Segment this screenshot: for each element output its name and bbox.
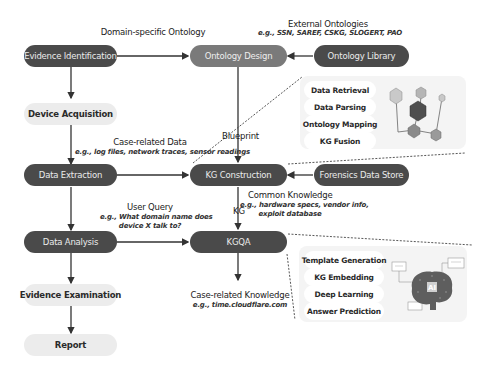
step-kg-embedding: KG Embedding: [304, 268, 384, 286]
ai-text: AI: [428, 284, 436, 292]
label-kg: KG: [232, 206, 246, 216]
label-common-knowledge-examples-1: e.g., hardware specs, vendor info,: [240, 201, 340, 209]
step-template-generation: Template Generation: [304, 251, 384, 269]
node-kgqa[interactable]: KGQA: [190, 231, 287, 253]
ai-brain-icon: AI: [390, 254, 470, 318]
node-report[interactable]: Report: [24, 334, 117, 356]
step-data-parsing: Data Parsing: [304, 98, 376, 116]
node-device-acquisition[interactable]: Device Acquisition: [24, 103, 117, 125]
node-evidence-examination[interactable]: Evidence Examination: [24, 284, 117, 306]
node-evidence-identification[interactable]: Evidence Identification: [24, 45, 117, 67]
step-kg-fusion: KG Fusion: [304, 132, 376, 150]
node-kg-construction[interactable]: KG Construction: [190, 164, 287, 186]
knowledge-graph-icon: [388, 84, 460, 146]
label-external-ontologies-examples: e.g., SSN, SAREF, CSKG, SLOGERT, PAO: [255, 29, 405, 37]
label-case-related-knowledge-example: e.g., time.cloudflare.com: [188, 301, 292, 309]
label-case-related-data-examples: e.g., log files, network traces, sensor …: [75, 148, 235, 156]
label-user-query-examples-2: device X talk to?: [100, 222, 200, 230]
label-external-ontologies: External Ontologies: [283, 19, 373, 29]
label-common-knowledge-examples-2: exploit database: [240, 210, 340, 218]
node-data-extraction[interactable]: Data Extraction: [24, 164, 117, 186]
node-ontology-library[interactable]: Ontology Library: [314, 45, 409, 67]
node-ontology-design[interactable]: Ontology Design: [190, 45, 287, 67]
label-user-query: User Query: [125, 202, 175, 212]
label-blueprint: Blueprint: [222, 131, 256, 141]
step-answer-prediction: Answer Prediction: [304, 302, 384, 320]
label-domain-ontology: Domain-specific Ontology: [100, 27, 206, 37]
label-user-query-examples-1: e.g., What domain name does: [100, 213, 200, 221]
node-data-analysis[interactable]: Data Analysis: [24, 231, 117, 253]
node-forensics-data-store[interactable]: Forensics Data Store: [314, 164, 409, 186]
label-case-related-data: Case-related Data: [110, 137, 190, 147]
step-deep-learning: Deep Learning: [304, 285, 384, 303]
step-data-retrieval: Data Retrieval: [304, 81, 376, 99]
step-ontology-mapping: Ontology Mapping: [304, 115, 376, 133]
label-case-related-knowledge: Case-related Knowledge: [188, 290, 292, 300]
label-common-knowledge: Common Knowledge: [248, 190, 332, 200]
